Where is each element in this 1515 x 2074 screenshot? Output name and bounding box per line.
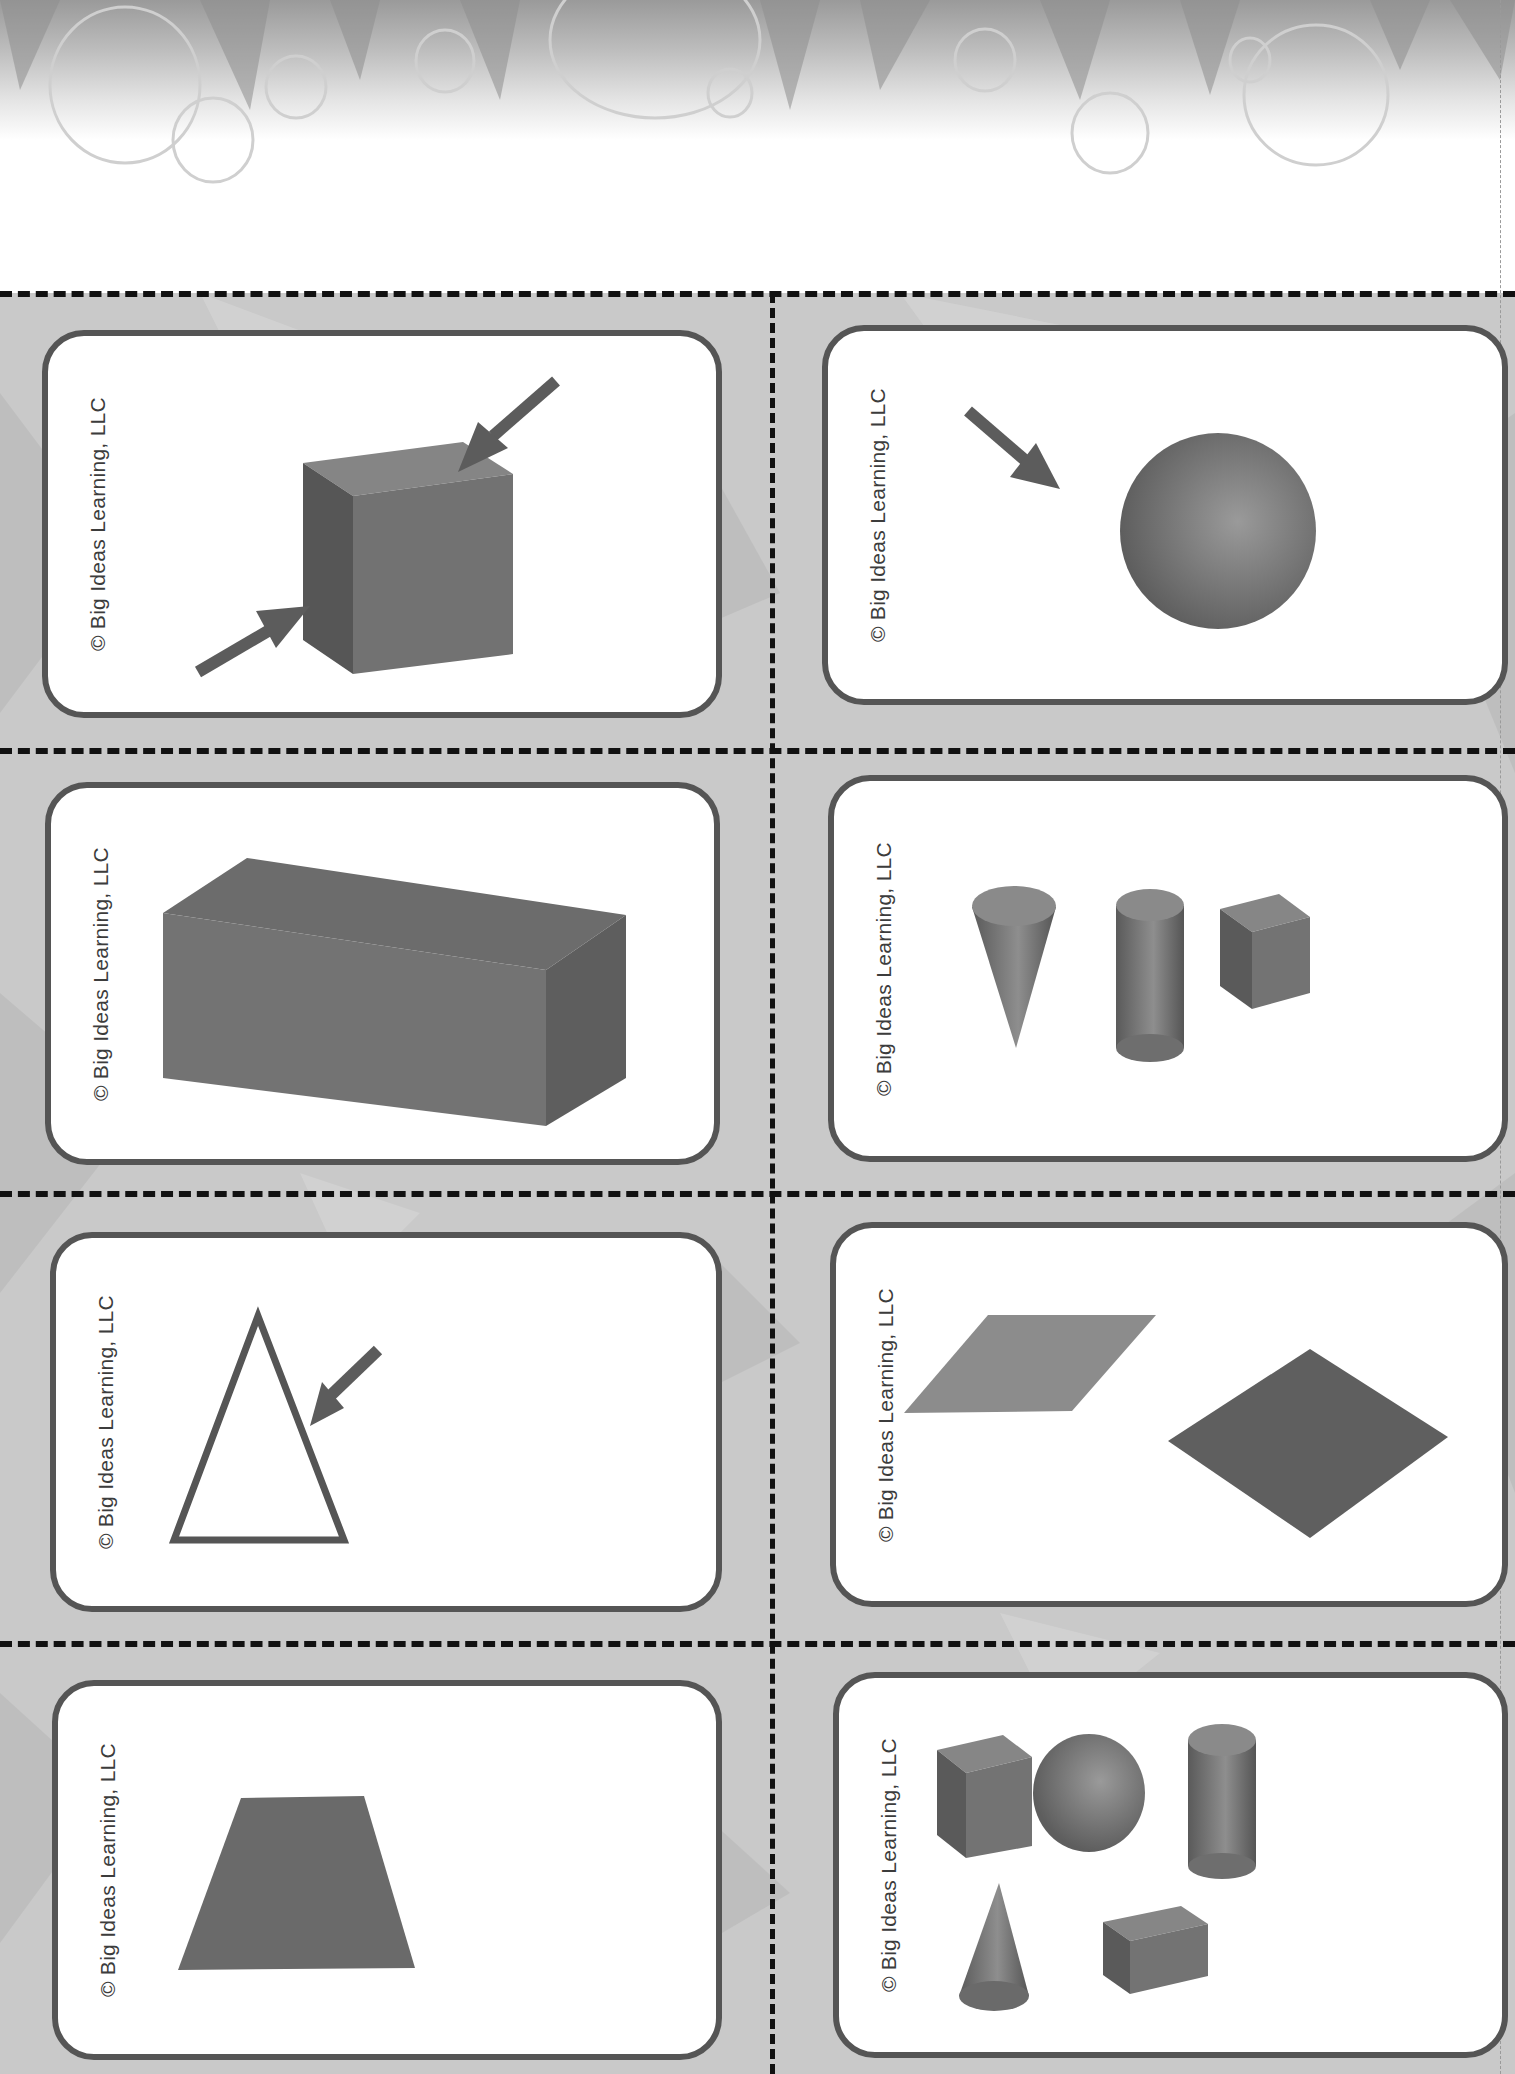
arrow-icon	[310, 1350, 378, 1426]
cut-line-horizontal-1	[0, 291, 1515, 297]
cone-shape	[959, 1883, 1029, 2011]
parallelogram-shape	[904, 1315, 1156, 1413]
cube-illustration	[48, 336, 722, 718]
trapezoid-illustration	[58, 1686, 722, 2060]
rectangular-prism-shape	[1103, 1906, 1208, 1994]
rectangular-prism-illustration	[51, 788, 720, 1165]
cylinder-shape	[1188, 1724, 1256, 1879]
cut-line-horizontal-4	[0, 1641, 1515, 1647]
arrow-icon	[968, 411, 1060, 489]
sphere-shape	[1033, 1734, 1145, 1852]
card-trapezoid[interactable]: © Big Ideas Learning, LLC	[52, 1680, 722, 2060]
cone-shape	[972, 886, 1056, 1048]
card-cube-vertices[interactable]: © Big Ideas Learning, LLC	[42, 330, 722, 718]
cut-line-vertical	[770, 293, 775, 2074]
card-assorted-solids[interactable]: © Big Ideas Learning, LLC	[833, 1672, 1508, 2058]
bubbles-decoration	[0, 0, 1515, 295]
card-cone-cylinder-cube[interactable]: © Big Ideas Learning, LLC	[828, 775, 1508, 1162]
rhombus-shape	[1168, 1349, 1448, 1538]
quadrilaterals-illustration	[836, 1228, 1508, 1607]
card-parallelogram-rhombus[interactable]: © Big Ideas Learning, LLC	[830, 1222, 1508, 1607]
sphere-illustration	[828, 331, 1508, 705]
cut-line-horizontal-2	[0, 748, 1515, 754]
cube-shape	[937, 1735, 1032, 1858]
header-decoration	[0, 0, 1515, 295]
card-triangle-side[interactable]: © Big Ideas Learning, LLC	[50, 1232, 722, 1612]
card-sphere-surface[interactable]: © Big Ideas Learning, LLC	[822, 325, 1508, 705]
card-rectangular-prism[interactable]: © Big Ideas Learning, LLC	[45, 782, 720, 1165]
cube-shape	[1220, 894, 1310, 1009]
cut-line-horizontal-3	[0, 1191, 1515, 1197]
solids-illustration	[834, 781, 1508, 1162]
assorted-solids-illustration	[839, 1678, 1508, 2058]
triangle-illustration	[56, 1238, 722, 1612]
cylinder-shape	[1116, 889, 1184, 1062]
